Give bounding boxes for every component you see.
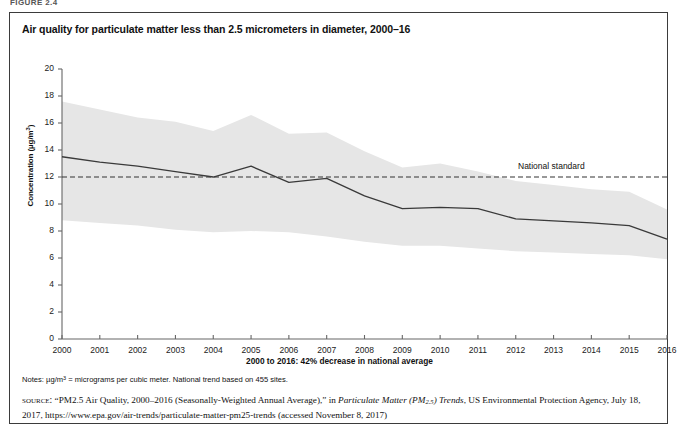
source-italic-title-b: ) Trends xyxy=(434,395,464,405)
x-axis-caption: 2000 to 2016: 42% decrease in national a… xyxy=(10,356,669,366)
x-axis-tick-2014: 2014 xyxy=(571,345,611,355)
x-axis-tick-2016: 2016 xyxy=(647,345,679,355)
x-axis-tick-2006: 2006 xyxy=(269,345,309,355)
x-axis-tick-2009: 2009 xyxy=(382,345,422,355)
national-standard-annotation: National standard xyxy=(518,161,585,171)
x-axis-tick-2008: 2008 xyxy=(345,345,385,355)
source-italic-title-sub: 2.5 xyxy=(425,398,433,405)
x-axis-tick-2005: 2005 xyxy=(231,345,271,355)
x-axis-tick-2003: 2003 xyxy=(155,345,195,355)
x-axis-tick-2002: 2002 xyxy=(118,345,158,355)
x-axis-tick-2004: 2004 xyxy=(193,345,233,355)
x-axis-tick-2015: 2015 xyxy=(609,345,649,355)
x-axis-tick-2007: 2007 xyxy=(307,345,347,355)
source-italic-title-a: Particulate Matter (PM xyxy=(338,395,425,405)
y-axis-tick-20: 20 xyxy=(30,63,54,73)
chart-svg xyxy=(10,13,669,373)
figure-number-label: FIGURE 2.4 xyxy=(10,0,58,8)
x-axis-tick-2001: 2001 xyxy=(80,345,120,355)
x-axis-tick-2013: 2013 xyxy=(534,345,574,355)
figure-box: Air quality for particulate matter less … xyxy=(9,12,668,424)
y-axis-tick-4: 4 xyxy=(30,279,54,289)
x-axis-tick-2011: 2011 xyxy=(458,345,498,355)
y-axis-tick-0: 0 xyxy=(30,333,54,343)
chart-plot-area: Concentration (µg/m3) 02468101214161820 … xyxy=(10,13,669,373)
source-kicker: source: xyxy=(22,394,52,405)
source-part-1: “PM2.5 Air Quality, 2000–2016 (Seasonall… xyxy=(55,395,339,405)
source-text: source: “PM2.5 Air Quality, 2000–2016 (S… xyxy=(22,394,660,422)
y-axis-tick-2: 2 xyxy=(30,306,54,316)
x-axis-tick-2000: 2000 xyxy=(42,345,82,355)
notes-text: Notes: µg/m3 = micrograms per cubic mete… xyxy=(22,375,288,384)
y-axis-tick-10: 10 xyxy=(30,198,54,208)
y-axis-tick-18: 18 xyxy=(30,90,54,100)
confidence-band xyxy=(62,101,667,259)
y-axis-tick-14: 14 xyxy=(30,144,54,154)
y-axis-tick-8: 8 xyxy=(30,225,54,235)
y-axis-tick-16: 16 xyxy=(30,117,54,127)
y-axis-tick-6: 6 xyxy=(30,252,54,262)
x-axis-tick-2012: 2012 xyxy=(496,345,536,355)
y-axis-tick-12: 12 xyxy=(30,171,54,181)
x-axis-tick-2010: 2010 xyxy=(420,345,460,355)
